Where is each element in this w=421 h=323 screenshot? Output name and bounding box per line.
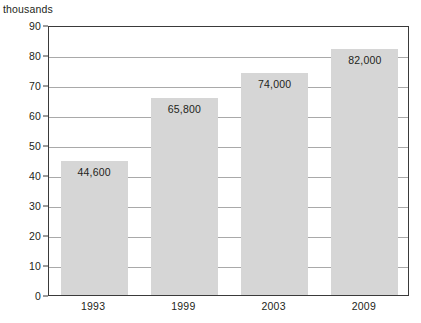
y-axis-tick-label: 80 xyxy=(29,51,41,61)
y-axis-tick-label: 0 xyxy=(35,291,41,301)
bars-layer: 44,60065,80074,00082,000 xyxy=(49,27,408,295)
bar[interactable]: 74,000 xyxy=(241,73,308,295)
x-axis-tick-label: 1999 xyxy=(171,300,195,312)
y-axis-tick-label: 70 xyxy=(29,81,41,91)
bar[interactable]: 44,600 xyxy=(61,161,128,295)
bar-value-label: 82,000 xyxy=(331,54,398,66)
y-axis-tick-label: 90 xyxy=(29,21,41,31)
x-axis-tick-label: 2009 xyxy=(352,300,376,312)
y-axis-tick-label: 60 xyxy=(29,111,41,121)
bar[interactable]: 82,000 xyxy=(331,49,398,295)
bar-value-label: 44,600 xyxy=(61,166,128,178)
y-axis-tick-label: 10 xyxy=(29,261,41,271)
bar[interactable]: 65,800 xyxy=(151,98,218,295)
bar-chart-figure: thousands 0102030405060708090 44,60065,8… xyxy=(0,0,421,323)
bar-value-label: 65,800 xyxy=(151,103,218,115)
x-axis: 1993199920032009 xyxy=(48,297,409,317)
y-axis-tick-label: 50 xyxy=(29,141,41,151)
y-axis: 0102030405060708090 xyxy=(0,26,48,296)
x-axis-tick-label: 2003 xyxy=(262,300,286,312)
y-axis-tick-label: 40 xyxy=(29,171,41,181)
plot-area: 44,60065,80074,00082,000 xyxy=(48,26,409,296)
y-axis-unit-caption: thousands xyxy=(3,3,53,16)
bar-value-label: 74,000 xyxy=(241,78,308,90)
y-axis-tick-label: 30 xyxy=(29,201,41,211)
y-axis-tick-label: 20 xyxy=(29,231,41,241)
x-axis-tick-label: 1993 xyxy=(81,300,105,312)
